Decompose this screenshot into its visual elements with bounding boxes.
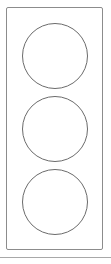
lamp-bottom-circle <box>22 169 88 235</box>
lamp-middle-circle <box>22 96 88 162</box>
lamp-top-circle <box>22 23 88 89</box>
signal-housing <box>6 7 103 250</box>
bottom-separator-rule <box>0 257 111 258</box>
figure-canvas <box>0 0 111 264</box>
